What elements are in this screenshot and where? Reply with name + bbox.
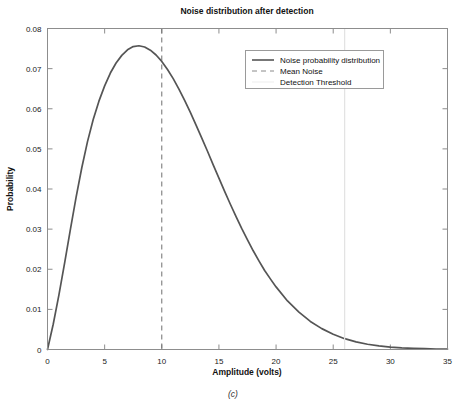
y-tick-label: 0.08: [26, 25, 42, 34]
legend-label-detection-threshold: Detection Threshold: [280, 78, 351, 87]
figure-panel: Noise distribution after detection 00.01…: [0, 0, 466, 408]
x-axis-label: Amplitude (volts): [212, 367, 282, 377]
y-tick-label: 0.02: [26, 265, 42, 274]
series-line-noise-probability-distribution: [48, 46, 448, 350]
y-tick-label: 0.03: [26, 225, 42, 234]
y-axis-label: Probability: [5, 167, 15, 211]
chart-title: Noise distribution after detection: [180, 6, 313, 16]
y-tick-label: 0.05: [26, 145, 42, 154]
y-tick-label: 0: [37, 346, 42, 355]
x-tick-label: 25: [329, 357, 338, 366]
y-tick-label: 0.07: [26, 65, 42, 74]
x-tick-label: 10: [157, 357, 166, 366]
legend-label-noise-probability-distribution: Noise probability distribution: [280, 56, 380, 65]
y-tick-label: 0.01: [26, 305, 42, 314]
x-tick-label: 20: [272, 357, 281, 366]
y-tick-label: 0.04: [26, 185, 42, 194]
x-tick-label: 0: [45, 357, 50, 366]
chart-legend[interactable]: Noise probability distribution Mean Nois…: [246, 51, 384, 89]
x-tick-label: 30: [386, 357, 395, 366]
x-tick-label: 15: [214, 357, 223, 366]
figure-caption: (c): [228, 389, 238, 399]
y-axis-ticks: 00.010.020.030.040.050.060.070.08: [26, 25, 448, 355]
x-tick-label: 5: [102, 357, 107, 366]
noise-distribution-chart: Noise distribution after detection 00.01…: [0, 0, 466, 408]
y-tick-label: 0.06: [26, 105, 42, 114]
legend-label-mean-noise: Mean Noise: [280, 67, 323, 76]
x-tick-label: 35: [443, 357, 452, 366]
